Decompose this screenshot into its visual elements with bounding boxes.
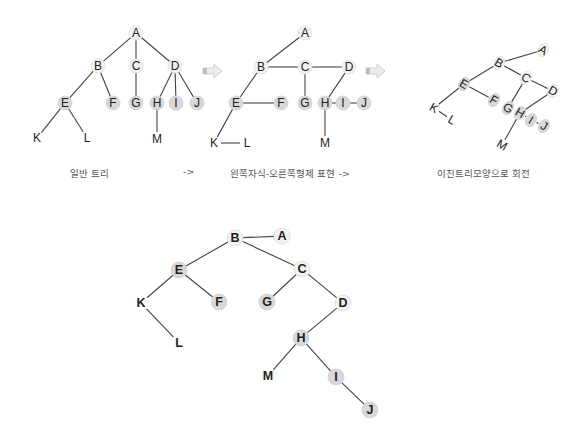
tree-node-l: L xyxy=(446,112,459,128)
tree-node-b: B xyxy=(491,54,507,71)
tree-node-e: E xyxy=(171,262,187,278)
tree-node-h: H xyxy=(293,330,309,346)
node-label: E xyxy=(232,96,240,110)
node-label: M xyxy=(263,369,273,383)
tree-edge xyxy=(525,116,526,117)
node-label: E xyxy=(175,263,183,277)
tree-node-m: M xyxy=(263,369,273,383)
tree-node-k: K xyxy=(427,100,441,116)
node-label: L xyxy=(175,336,183,350)
tree-node-m: M xyxy=(494,136,510,153)
node-label: H xyxy=(153,96,162,110)
node-label: M xyxy=(494,136,510,153)
tree-node-j: J xyxy=(362,402,378,418)
tree-node-a: A xyxy=(535,41,551,58)
tree-node-a: A xyxy=(298,26,312,40)
tree-node-l: L xyxy=(84,131,91,145)
tree-node-f: F xyxy=(211,294,227,310)
caption-lcrs: 왼쪽자식-오른쪽형제 표현 -> xyxy=(230,166,350,180)
tree-node-k: K xyxy=(136,296,145,310)
tree-edge xyxy=(179,72,194,97)
tree-node-i: I xyxy=(328,369,344,385)
tree-node-m: M xyxy=(320,136,330,150)
node-label: G xyxy=(300,96,309,110)
caption-rotated: 이진트리모양으로 회전 xyxy=(437,166,530,180)
tree-node-j: J xyxy=(357,96,371,110)
tree-node-c: C xyxy=(298,60,312,74)
tree-edge xyxy=(504,66,521,75)
node-label: L xyxy=(244,136,251,150)
tree-node-f: F xyxy=(274,96,288,110)
node-label: F xyxy=(215,295,223,309)
caption-arrow: -> xyxy=(183,166,194,177)
node-label: A xyxy=(132,26,140,40)
tree-edge xyxy=(273,274,296,296)
tree-node-k: K xyxy=(33,131,41,145)
node-label: A xyxy=(277,229,286,243)
node-label: D xyxy=(171,59,180,73)
tree-edge xyxy=(185,275,213,297)
tree-node-a: A xyxy=(274,228,290,244)
node-label: L xyxy=(446,112,459,128)
tree-node-j: J xyxy=(536,117,552,134)
node-label: B xyxy=(257,60,265,74)
tree-edge xyxy=(505,118,517,140)
tree-edge xyxy=(531,81,547,89)
node-label: G xyxy=(131,96,140,110)
node-label: I xyxy=(341,96,344,110)
tree-node-b: B xyxy=(227,230,243,246)
tree-edge xyxy=(273,344,296,370)
tree-edge xyxy=(217,109,232,137)
tree-edge xyxy=(70,71,94,98)
tree-node-g: G xyxy=(259,294,275,310)
node-label: E xyxy=(61,96,69,110)
tree-edge xyxy=(175,73,176,96)
tree-edge xyxy=(306,344,330,371)
tree-edge xyxy=(103,38,130,62)
tree-node-m: M xyxy=(152,132,162,146)
node-label: J xyxy=(194,96,200,110)
tree-edge xyxy=(536,123,538,124)
tree-diagram-canvas: ABCDEFGHIJKLM ABCDEFGHIJKLM ABCDEFGHIJKL… xyxy=(0,0,583,431)
tree-edge xyxy=(505,52,537,62)
tree-node-e: E xyxy=(229,96,243,110)
tree-edge xyxy=(101,72,111,96)
node-label: C xyxy=(301,60,310,74)
tree-node-e: E xyxy=(58,96,72,110)
node-label: C xyxy=(132,59,141,73)
node-label: D xyxy=(338,296,347,310)
tree-node-i: I xyxy=(523,111,539,128)
tree-edge xyxy=(525,94,548,109)
node-label: K xyxy=(136,296,145,310)
node-label: B xyxy=(94,59,102,73)
tree-edge xyxy=(141,38,169,62)
tree-node-f: F xyxy=(106,96,120,110)
node-label: F xyxy=(277,96,284,110)
tree-node-c: C xyxy=(518,69,534,86)
node-label: H xyxy=(296,331,305,345)
tree-edge xyxy=(69,109,84,132)
tree-node-d: D xyxy=(335,295,351,311)
tree-edge xyxy=(186,242,228,266)
tree-node-i: I xyxy=(336,96,350,110)
node-label: I xyxy=(334,370,337,384)
tree-node-d: D xyxy=(168,59,182,73)
tree-node-j: J xyxy=(190,96,204,110)
tree-node-k: K xyxy=(210,136,218,150)
binary-tree: ABCDEFGHIJKLM xyxy=(136,228,378,418)
node-label: K xyxy=(210,136,218,150)
tree-edge xyxy=(439,111,447,116)
tree-node-b: B xyxy=(254,60,268,74)
node-label: B xyxy=(230,231,239,245)
tree-node-h: H xyxy=(150,96,164,110)
tree-node-l: L xyxy=(175,336,183,350)
tree-node-f: F xyxy=(486,91,502,108)
node-label: D xyxy=(345,60,354,74)
tree-edge xyxy=(243,236,274,237)
tree-edge xyxy=(160,72,172,96)
tree-edge xyxy=(329,73,345,97)
tree-edge xyxy=(439,88,460,105)
node-label: F xyxy=(109,96,116,110)
tree-node-c: C xyxy=(129,59,143,73)
transform-arrow-icon xyxy=(203,64,222,78)
